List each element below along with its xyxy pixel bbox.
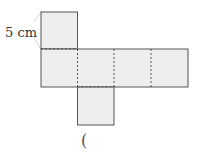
face-bottom [78, 87, 115, 125]
face-top [41, 12, 78, 49]
side-length-label: 5 cm [5, 25, 37, 40]
cube-net [0, 0, 205, 156]
answer-parenthesis: ( [81, 131, 87, 150]
